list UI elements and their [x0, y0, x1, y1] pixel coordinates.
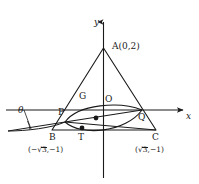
label-point-A: A(0,2): [112, 42, 140, 51]
label-coord-C: (√3,−1): [135, 146, 164, 154]
coord-b-radical: √3: [37, 146, 47, 154]
label-y-axis: y: [94, 18, 99, 27]
radical-bar-c: [142, 147, 147, 148]
label-point-P: P: [58, 108, 64, 117]
radical-bar-b: [41, 147, 46, 148]
label-angle-theta: θ: [18, 106, 23, 115]
label-origin-O: O: [105, 95, 112, 104]
coord-c-radical: √3: [138, 146, 148, 154]
label-point-Q: Q: [138, 113, 145, 122]
label-point-B: B: [49, 133, 56, 142]
label-point-G: G: [79, 92, 86, 101]
coord-b-prefix: (−: [28, 145, 37, 154]
label-point-T: T: [78, 133, 84, 142]
label-x-axis: x: [186, 112, 191, 121]
point-dot-g: [94, 116, 99, 121]
point-dot-t: [80, 126, 85, 131]
geometry-canvas: [0, 0, 199, 184]
geometry-figure: A(0,2) B C P Q G T O x y θ (−√3,−1) (√3,…: [0, 0, 199, 184]
label-point-C: C: [152, 133, 159, 142]
theta-leader: [24, 110, 31, 129]
label-coord-B: (−√3,−1): [28, 146, 63, 154]
coord-c-suffix: ,−1): [148, 145, 164, 154]
coord-b-suffix: ,−1): [47, 145, 63, 154]
